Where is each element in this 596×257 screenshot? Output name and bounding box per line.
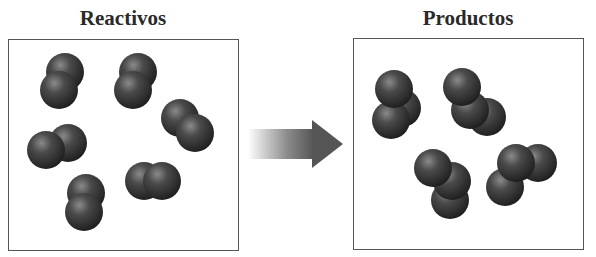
diagram-graphics bbox=[0, 0, 596, 257]
products-molecule bbox=[414, 149, 471, 219]
atom bbox=[27, 131, 65, 169]
products-molecule bbox=[372, 70, 421, 139]
atom bbox=[143, 162, 181, 200]
reactants-molecule bbox=[40, 53, 84, 109]
atom bbox=[114, 71, 152, 109]
atom bbox=[375, 70, 413, 108]
atom bbox=[497, 144, 535, 182]
reactants-molecule bbox=[65, 174, 105, 231]
atom bbox=[443, 68, 481, 106]
reactants-molecule bbox=[114, 53, 157, 109]
reactants-molecule bbox=[27, 124, 87, 169]
reaction-arrow bbox=[248, 120, 343, 168]
reactants-molecule bbox=[161, 99, 214, 152]
atom bbox=[40, 71, 78, 109]
atom bbox=[176, 114, 214, 152]
products-molecule bbox=[443, 68, 506, 136]
atom bbox=[65, 193, 103, 231]
atom bbox=[414, 149, 452, 187]
products-molecule bbox=[486, 144, 557, 206]
reactants-molecule bbox=[125, 162, 181, 200]
